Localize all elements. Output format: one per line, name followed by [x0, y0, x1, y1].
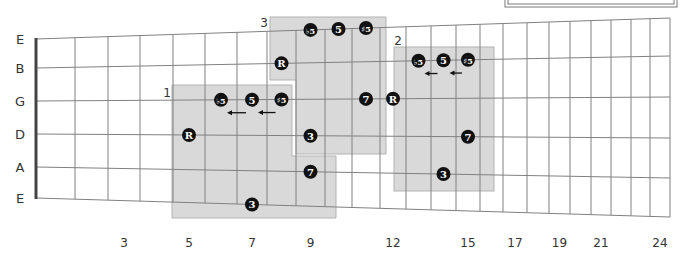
- fret-number: 19: [552, 236, 567, 250]
- string-label: G: [15, 94, 25, 109]
- svg-text:7: 7: [363, 94, 370, 105]
- note-marker-3: 3: [245, 197, 259, 211]
- position-label-1: 1: [163, 86, 171, 100]
- svg-text:3: 3: [249, 199, 256, 210]
- svg-text:7: 7: [465, 132, 472, 143]
- svg-text:R: R: [277, 58, 286, 69]
- note-marker-5: 5: [245, 93, 259, 107]
- note-marker-7: 7: [359, 92, 373, 106]
- fret-number: 5: [185, 236, 193, 250]
- position-label-3: 3: [260, 16, 268, 30]
- svg-text:♭5: ♭5: [216, 96, 225, 106]
- string-label: E: [16, 32, 24, 47]
- svg-text:♯5: ♯5: [463, 56, 472, 66]
- note-marker-flat5: ♭5: [412, 54, 426, 68]
- fret-number: 9: [307, 236, 315, 250]
- svg-text:3: 3: [440, 169, 447, 180]
- string-label: A: [16, 160, 25, 175]
- note-marker-flat5: ♭5: [304, 23, 318, 37]
- svg-text:5: 5: [335, 24, 342, 35]
- note-marker-sharp5: ♯5: [359, 21, 373, 35]
- svg-text:3: 3: [307, 131, 314, 142]
- position-label-2: 2: [394, 34, 402, 48]
- string-label: E: [16, 191, 24, 206]
- top-right-frame: [505, 0, 677, 7]
- note-marker-5: 5: [437, 53, 451, 67]
- svg-text:7: 7: [307, 167, 314, 178]
- string-line: [36, 198, 670, 217]
- note-marker-5: 5: [332, 22, 346, 36]
- svg-text:R: R: [185, 130, 194, 141]
- svg-text:♯5: ♯5: [361, 24, 370, 34]
- svg-text:5: 5: [249, 95, 256, 106]
- svg-text:R: R: [389, 94, 398, 105]
- svg-text:5: 5: [440, 55, 447, 66]
- fret-number: 24: [652, 236, 667, 250]
- fret-number: 12: [385, 236, 400, 250]
- fret-number: 15: [460, 236, 475, 250]
- svg-text:♭5: ♭5: [414, 57, 423, 67]
- note-marker-sharp5: ♯5: [461, 53, 475, 67]
- note-marker-root: R: [182, 128, 196, 142]
- string-label: B: [16, 61, 25, 76]
- note-marker-7: 7: [304, 165, 318, 179]
- note-marker-7: 7: [461, 130, 475, 144]
- note-marker-root: R: [275, 56, 289, 70]
- fret-number: 17: [507, 236, 522, 250]
- svg-text:♭5: ♭5: [306, 26, 315, 36]
- string-label: D: [15, 127, 25, 142]
- note-marker-root: R: [386, 92, 400, 106]
- fret-number: 3: [120, 236, 128, 250]
- fretboard-diagram: EBGDAE3579121517192124123 R♭55♯5373R♭55♯…: [0, 0, 690, 265]
- note-marker-flat5: ♭5: [214, 93, 228, 107]
- note-marker-3: 3: [304, 129, 318, 143]
- note-marker-3: 3: [437, 167, 451, 181]
- string-line: [36, 167, 670, 178]
- fret-number: 21: [593, 236, 608, 250]
- svg-text:♯5: ♯5: [277, 95, 286, 105]
- position-boxes: [172, 17, 494, 218]
- note-marker-sharp5: ♯5: [275, 92, 289, 106]
- fretboard-svg: EBGDAE3579121517192124123 R♭55♯5373R♭55♯…: [0, 0, 690, 265]
- fret-number: 7: [248, 236, 256, 250]
